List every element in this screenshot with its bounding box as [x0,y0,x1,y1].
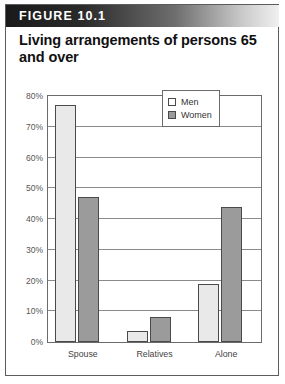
legend-label: Men [181,97,199,107]
y-axis: 0%10%20%30%40%50%60%70%80% [6,95,43,343]
y-tick-label: 60% [9,153,43,163]
legend-item-men: Men [168,96,212,108]
y-tick-label: 70% [9,122,43,132]
y-tick-label: 10% [9,306,43,316]
x-tick-label-relatives: Relatives [119,349,191,359]
figure-header-bar: FIGURE 10.1 [6,5,279,27]
legend-swatch-icon [168,111,176,119]
legend-swatch-icon [168,98,176,106]
y-tick-label: 20% [9,276,43,286]
figure-title: Living arrangements of persons 65 and ov… [19,32,269,66]
x-tick-label-alone: Alone [190,349,262,359]
x-axis: SpouseRelativesAlone [47,81,262,376]
figure-card: FIGURE 10.1 Living arrangements of perso… [5,4,279,376]
y-tick-label: 0% [9,337,43,347]
bar-chart: 0%10%20%30%40%50%60%70%80% SpouseRelativ… [6,81,279,376]
chart-legend: MenWomen [162,90,220,127]
legend-item-women: Women [168,109,212,121]
y-tick-label: 80% [9,91,43,101]
y-tick-label: 40% [9,214,43,224]
legend-label: Women [181,110,212,120]
figure-number-label: FIGURE 10.1 [19,9,106,23]
y-tick-label: 50% [9,183,43,193]
y-tick-label: 30% [9,245,43,255]
x-tick-label-spouse: Spouse [47,349,119,359]
